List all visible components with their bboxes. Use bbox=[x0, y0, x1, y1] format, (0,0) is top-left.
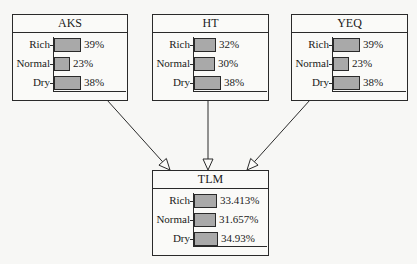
state-row-dry: Dry38% bbox=[292, 75, 407, 91]
state-label: Rich bbox=[169, 194, 190, 206]
state-label: Dry bbox=[33, 76, 50, 88]
state-row-normal: Normal30% bbox=[153, 56, 268, 72]
probability-bar bbox=[194, 38, 216, 52]
bar-baseline bbox=[193, 91, 267, 92]
state-table: Rich32%Normal30%Dry38% bbox=[153, 33, 268, 101]
state-row-normal: Normal23% bbox=[13, 56, 127, 72]
state-row-rich: Rich33.413% bbox=[153, 193, 268, 209]
state-table: Rich39%Normal23%Dry38% bbox=[292, 33, 407, 101]
arrowhead-icon bbox=[203, 159, 213, 170]
probability-value: 30% bbox=[218, 57, 238, 69]
state-label: Normal bbox=[16, 57, 50, 69]
probability-value: 23% bbox=[73, 57, 93, 69]
state-label: Normal bbox=[156, 57, 190, 69]
state-label: Normal bbox=[295, 57, 329, 69]
probability-value: 38% bbox=[363, 76, 383, 88]
state-label: Dry bbox=[173, 76, 190, 88]
state-row-rich: Rich39% bbox=[13, 37, 127, 53]
node-aks[interactable]: AKSRich39%Normal23%Dry38% bbox=[12, 14, 128, 101]
state-row-rich: Rich39% bbox=[292, 37, 407, 53]
probability-bar bbox=[194, 194, 217, 208]
edge-yeq-to-tlm bbox=[254, 100, 310, 162]
state-row-normal: Normal31.657% bbox=[153, 212, 268, 228]
state-label: Rich bbox=[169, 38, 190, 50]
node-yeq[interactable]: YEQRich39%Normal23%Dry38% bbox=[291, 14, 408, 101]
state-row-normal: Normal23% bbox=[292, 56, 407, 72]
probability-value: 39% bbox=[84, 38, 104, 50]
probability-bar bbox=[333, 57, 349, 71]
node-title: TLM bbox=[153, 171, 268, 189]
node-tlm[interactable]: TLMRich33.413%Normal31.657%Dry34.93% bbox=[152, 170, 269, 256]
probability-value: 39% bbox=[363, 38, 383, 50]
state-row-dry: Dry38% bbox=[13, 75, 127, 91]
bar-baseline bbox=[53, 91, 126, 92]
probability-bar bbox=[54, 38, 81, 52]
probability-value: 33.413% bbox=[220, 194, 259, 206]
node-ht[interactable]: HTRich32%Normal30%Dry38% bbox=[152, 14, 269, 101]
state-label: Rich bbox=[29, 38, 50, 50]
probability-bar bbox=[333, 38, 360, 52]
probability-value: 34.93% bbox=[221, 232, 255, 244]
bar-baseline bbox=[332, 91, 406, 92]
probability-value: 32% bbox=[219, 38, 239, 50]
node-title: YEQ bbox=[292, 15, 407, 33]
state-row-dry: Dry38% bbox=[153, 75, 268, 91]
probability-bar bbox=[54, 57, 70, 71]
probability-bar bbox=[194, 57, 215, 71]
probability-bar bbox=[54, 76, 81, 90]
probability-value: 23% bbox=[352, 57, 372, 69]
state-label: Dry bbox=[173, 232, 190, 244]
probability-bar bbox=[194, 232, 218, 246]
probability-bar bbox=[333, 76, 360, 90]
state-label: Dry bbox=[312, 76, 329, 88]
edge-aks-to-tlm bbox=[107, 100, 163, 162]
state-label: Rich bbox=[308, 38, 329, 50]
state-table: Rich39%Normal23%Dry38% bbox=[13, 33, 127, 101]
node-title: AKS bbox=[13, 15, 127, 33]
state-label: Normal bbox=[156, 213, 190, 225]
probability-value: 38% bbox=[224, 76, 244, 88]
node-title: HT bbox=[153, 15, 268, 33]
state-table: Rich33.413%Normal31.657%Dry34.93% bbox=[153, 189, 268, 256]
probability-bar bbox=[194, 76, 221, 90]
probability-value: 31.657% bbox=[219, 213, 258, 225]
probability-bar bbox=[194, 213, 216, 227]
probability-value: 38% bbox=[84, 76, 104, 88]
state-row-rich: Rich32% bbox=[153, 37, 268, 53]
state-row-dry: Dry34.93% bbox=[153, 231, 268, 247]
